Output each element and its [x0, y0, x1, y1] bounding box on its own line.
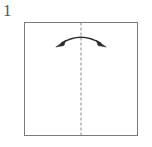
fold-arrow-head-left — [56, 40, 66, 47]
fold-arrow-head-right — [96, 40, 106, 47]
fold-arrow — [55, 28, 107, 50]
fold-arrow-arc — [62, 37, 101, 43]
origami-step-diagram: 1 — [0, 0, 152, 147]
step-number-label: 1 — [3, 0, 19, 22]
